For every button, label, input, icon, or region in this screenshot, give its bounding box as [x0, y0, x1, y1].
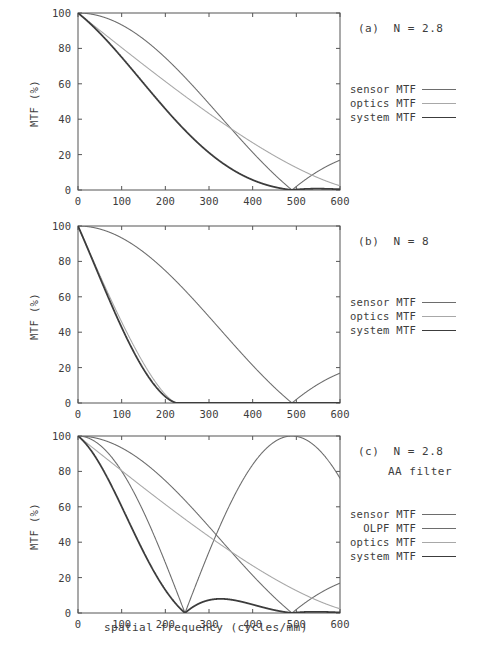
panel-c: 0100200300400500600020406080100 MTF (%) …: [0, 423, 486, 650]
legend-label: system MTF: [350, 111, 416, 123]
legend-item: sensor MTF: [350, 295, 456, 309]
legend-item: OLPF MTF: [350, 521, 456, 535]
y-tick-label: 0: [65, 607, 71, 619]
legend-swatch-system: [422, 117, 456, 118]
curve-optics-mtf: [78, 13, 340, 186]
x-tick-label: 600: [331, 408, 350, 420]
legend-label: optics MTF: [350, 536, 416, 548]
x-tick-label: 600: [331, 195, 350, 207]
panel-label-a: (a) N = 2.8: [358, 22, 443, 35]
legend-swatch-sensor: [422, 514, 456, 515]
curve-sensor-mtf: [78, 13, 340, 190]
x-tick-label: 500: [287, 195, 306, 207]
y-tick-label: 0: [65, 184, 71, 196]
legend-item: optics MTF: [350, 309, 456, 323]
y-tick-label: 40: [58, 326, 71, 338]
y-tick-label: 80: [58, 255, 71, 267]
x-axis-title: spatial frequency (cycles/mm): [104, 621, 308, 634]
x-tick-label: 100: [112, 195, 131, 207]
x-tick-label: 0: [75, 195, 81, 207]
legend-c: sensor MTF OLPF MTF optics MTF system MT…: [350, 507, 456, 563]
legend-item: system MTF: [350, 110, 456, 124]
y-tick-label: 80: [58, 42, 71, 54]
y-tick-label: 80: [58, 465, 71, 477]
legend-item: optics MTF: [350, 96, 456, 110]
x-tick-label: 300: [200, 408, 219, 420]
legend-item: sensor MTF: [350, 82, 456, 96]
legend-swatch-optics: [422, 542, 456, 543]
legend-label: optics MTF: [350, 97, 416, 109]
y-tick-label: 20: [58, 149, 71, 161]
legend-swatch-sensor: [422, 89, 456, 90]
x-tick-label: 500: [287, 408, 306, 420]
panel-b: 0100200300400500600020406080100 MTF (%) …: [0, 213, 486, 425]
curve-system-mtf: [78, 436, 340, 613]
y-tick-label: 100: [52, 7, 71, 19]
y-tick-label: 60: [58, 78, 71, 90]
legend-swatch-system: [422, 330, 456, 331]
legend-swatch-olpf: [422, 528, 456, 529]
y-tick-label: 20: [58, 572, 71, 584]
curve-olpf-mtf: [78, 436, 340, 613]
curve-sensor-mtf: [78, 226, 340, 403]
panel-label-c: (c) N = 2.8: [358, 445, 443, 458]
legend-swatch-optics: [422, 316, 456, 317]
x-tick-label: 0: [75, 408, 81, 420]
y-axis-title-c: MTF (%): [28, 503, 40, 550]
y-tick-label: 20: [58, 362, 71, 374]
legend-item: system MTF: [350, 323, 456, 337]
panel-label-b: (b) N = 8: [358, 235, 429, 248]
legend-a: sensor MTF optics MTF system MTF: [350, 82, 456, 124]
legend-label: system MTF: [350, 550, 416, 562]
curve-sensor-mtf: [78, 436, 340, 613]
curve-optics-mtf: [78, 226, 340, 403]
y-tick-label: 60: [58, 501, 71, 513]
legend-item: optics MTF: [350, 535, 456, 549]
x-tick-label: 200: [156, 408, 175, 420]
legend-b: sensor MTF optics MTF system MTF: [350, 295, 456, 337]
legend-swatch-optics: [422, 103, 456, 104]
x-tick-label: 400: [243, 408, 262, 420]
x-tick-label: 200: [156, 195, 175, 207]
y-tick-label: 100: [52, 220, 71, 232]
legend-label: sensor MTF: [350, 83, 416, 95]
panel-label-c-line2: AA filter: [388, 465, 452, 478]
legend-swatch-sensor: [422, 302, 456, 303]
x-tick-label: 300: [200, 195, 219, 207]
legend-label: system MTF: [350, 324, 416, 336]
curve-system-mtf: [78, 226, 340, 403]
legend-label: optics MTF: [350, 310, 416, 322]
y-tick-label: 100: [52, 430, 71, 442]
x-tick-label: 0: [75, 618, 81, 630]
legend-item: sensor MTF: [350, 507, 456, 521]
y-tick-label: 0: [65, 397, 71, 409]
x-tick-label: 600: [331, 618, 350, 630]
legend-item: system MTF: [350, 549, 456, 563]
x-tick-label: 400: [243, 195, 262, 207]
curve-optics-mtf: [78, 436, 340, 609]
y-axis-title-b: MTF (%): [28, 293, 40, 340]
legend-label: sensor MTF: [350, 508, 416, 520]
legend-label: OLPF MTF: [363, 522, 416, 534]
y-tick-label: 60: [58, 291, 71, 303]
y-tick-label: 40: [58, 536, 71, 548]
panel-a: 0100200300400500600020406080100 MTF (%) …: [0, 0, 486, 215]
y-axis-title-a: MTF (%): [28, 80, 40, 127]
curve-system-mtf: [78, 13, 340, 190]
x-tick-label: 100: [112, 408, 131, 420]
legend-swatch-system: [422, 556, 456, 557]
legend-label: sensor MTF: [350, 296, 416, 308]
y-tick-label: 40: [58, 113, 71, 125]
